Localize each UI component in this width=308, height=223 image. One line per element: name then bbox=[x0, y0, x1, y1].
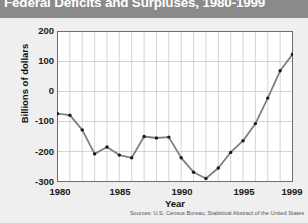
x-tick-label: 1985 bbox=[95, 186, 145, 197]
y-axis-title: Billions of dollars bbox=[19, 24, 30, 144]
data-point bbox=[142, 135, 145, 138]
data-point bbox=[278, 69, 281, 72]
x-tick-label: 1980 bbox=[35, 186, 85, 197]
plot-background bbox=[57, 31, 293, 182]
data-point bbox=[81, 128, 84, 131]
data-point bbox=[130, 156, 133, 159]
data-point bbox=[266, 96, 269, 99]
data-point bbox=[105, 145, 108, 148]
y-tick-label: -200 bbox=[14, 147, 54, 157]
data-point bbox=[155, 136, 158, 139]
source-note: Sources: U.S. Census Bureau, Statistical… bbox=[130, 210, 304, 216]
x-axis-title: Year bbox=[57, 198, 293, 209]
data-point bbox=[229, 151, 232, 154]
data-point bbox=[167, 135, 170, 138]
data-point bbox=[254, 122, 257, 125]
x-tick-label: 1990 bbox=[157, 186, 207, 197]
data-point bbox=[179, 156, 182, 159]
data-point bbox=[204, 177, 207, 180]
data-point bbox=[118, 153, 121, 156]
x-tick-label: 1999 bbox=[267, 186, 308, 197]
data-point bbox=[68, 114, 71, 117]
chart-canvas bbox=[57, 31, 293, 182]
plot-area bbox=[57, 31, 293, 182]
x-tick-label: 1995 bbox=[219, 186, 269, 197]
data-point bbox=[192, 171, 195, 174]
data-point bbox=[241, 139, 244, 142]
data-point bbox=[217, 166, 220, 169]
data-point bbox=[93, 152, 96, 155]
chart-figure: Federal Deficits and Surpluses, 1980-199… bbox=[0, 0, 308, 223]
